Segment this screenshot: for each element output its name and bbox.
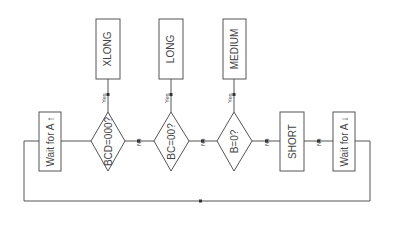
decision-b: B=0? (217, 112, 252, 171)
label-yes: Yes (164, 93, 170, 103)
node-long-label: LONG (165, 35, 176, 64)
node-xlong-label: XLONG (102, 31, 113, 66)
node-medium: MEDIUM (223, 19, 246, 79)
label-yes: Yes (227, 93, 233, 103)
label-yes: Yes (101, 93, 107, 103)
node-short-label: SHORT (287, 124, 298, 159)
decision-bc: BC=00? (154, 112, 189, 171)
arrow-mark (199, 200, 202, 203)
node-short: SHORT (280, 112, 304, 171)
label-no: No (316, 138, 322, 146)
node-long: LONG (159, 19, 183, 79)
decision-bc-label: BC=00? (166, 123, 177, 160)
flowchart: No No No No Yes Yes Yes XLONG LONG MEDIU… (0, 0, 400, 232)
label-no: No (200, 138, 206, 146)
decision-bcd-label: BCD=000? (103, 116, 114, 166)
node-medium-label: MEDIUM (229, 29, 240, 70)
edge-loop-back (24, 141, 370, 201)
node-wait-down: Wait for A ↓ (333, 112, 355, 171)
label-no: No (136, 138, 142, 146)
node-wait-down-label: Wait for A ↓ (339, 116, 350, 166)
decision-b-label: B=0? (229, 129, 240, 153)
node-wait-up: Wait for A ↑ (39, 112, 61, 171)
label-no: No (264, 138, 270, 146)
node-xlong: XLONG (96, 19, 120, 79)
decision-bcd: BCD=000? (91, 112, 125, 171)
node-wait-up-label: Wait for A ↑ (45, 116, 56, 166)
